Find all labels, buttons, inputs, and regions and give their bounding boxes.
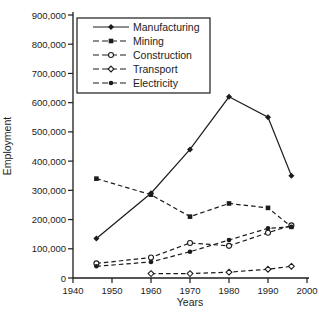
legend-label: Transport	[133, 63, 178, 75]
legend-label: Manufacturing	[133, 21, 200, 33]
legend-label: Mining	[133, 35, 164, 47]
x-tick-label: 1940	[62, 285, 83, 296]
open-circle-marker	[109, 53, 114, 58]
x-axis-title: Years	[177, 296, 203, 308]
y-tick-label: 800,000	[32, 39, 66, 50]
y-axis-title: Employment	[1, 117, 13, 175]
y-tick-label: 100,000	[32, 243, 66, 254]
open-circle-marker	[149, 255, 154, 260]
x-tick-label: 1970	[179, 285, 200, 296]
x-tick-label: 1990	[257, 285, 278, 296]
filled-diamond-marker	[288, 173, 294, 179]
open-circle-marker	[227, 243, 232, 248]
y-tick-label: 600,000	[32, 97, 66, 108]
x-tick-label: 1980	[218, 285, 239, 296]
filled-circle-marker	[227, 238, 232, 243]
filled-square-marker	[266, 206, 271, 211]
filled-circle-marker	[266, 226, 271, 231]
open-diamond-marker	[289, 263, 295, 269]
y-tick-label: 0	[61, 273, 66, 284]
filled-square-marker	[109, 39, 114, 44]
line-mining	[96, 179, 291, 227]
filled-square-marker	[227, 201, 232, 206]
data-series	[93, 94, 294, 277]
open-circle-marker	[188, 240, 193, 245]
legend-label: Electricity	[133, 77, 179, 89]
filled-square-marker	[149, 192, 154, 197]
filled-circle-marker	[188, 249, 193, 254]
filled-diamond-marker	[265, 114, 271, 120]
filled-circle-marker	[289, 225, 294, 230]
open-diamond-marker	[226, 269, 232, 275]
open-diamond-marker	[265, 266, 271, 272]
y-tick-label: 500,000	[32, 126, 66, 137]
x-tick-label: 2000	[296, 285, 317, 296]
open-diamond-marker	[148, 271, 154, 277]
y-tick-label: 900,000	[32, 10, 66, 21]
filled-circle-marker	[149, 260, 154, 265]
filled-circle-marker	[94, 264, 99, 269]
filled-square-marker	[188, 214, 193, 219]
filled-circle-marker	[109, 81, 114, 86]
line-construction	[96, 225, 291, 263]
y-tick-label: 200,000	[32, 214, 66, 225]
employment-line-chart: 0100,000200,000300,000400,000500,000600,…	[0, 0, 319, 323]
filled-square-marker	[94, 176, 99, 181]
y-tick-label: 700,000	[32, 68, 66, 79]
legend-label: Construction	[133, 49, 192, 61]
figure: 0100,000200,000300,000400,000500,000600,…	[0, 0, 319, 323]
open-circle-marker	[266, 230, 271, 235]
legend: ManufacturingMiningConstructionTransport…	[77, 18, 210, 93]
x-tick-label: 1960	[140, 285, 161, 296]
line-manufacturing	[96, 97, 291, 239]
y-tick-label: 400,000	[32, 156, 66, 167]
line-electricity	[96, 227, 291, 266]
open-diamond-marker	[187, 271, 193, 277]
y-tick-label: 300,000	[32, 185, 66, 196]
x-tick-label: 1950	[101, 285, 122, 296]
